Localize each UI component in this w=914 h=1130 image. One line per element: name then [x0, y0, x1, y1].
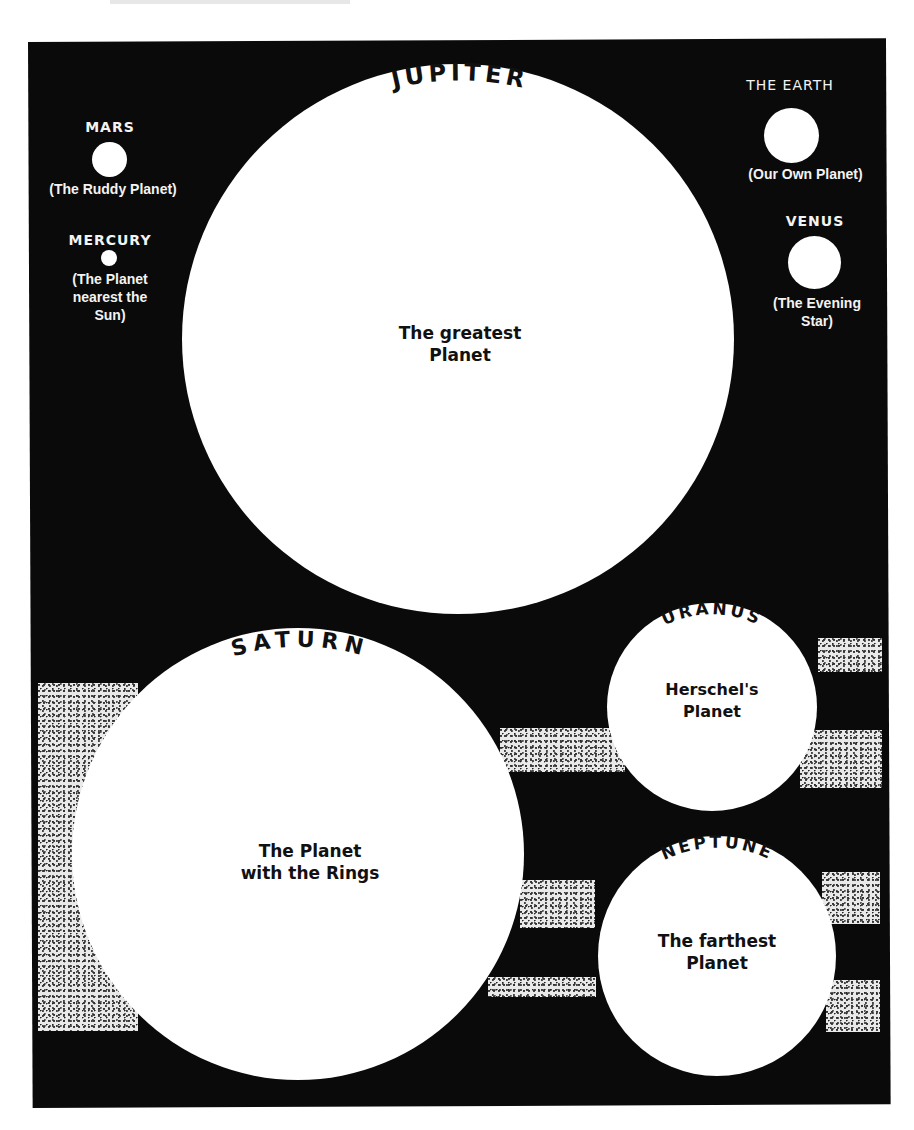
neptune-description: The farthest Planet	[622, 930, 812, 974]
svg-text:NEPTUNE: NEPTUNE	[658, 832, 778, 864]
neptune-name: NEPTUNE	[658, 832, 778, 864]
neptune-description-line-2: Planet	[622, 952, 812, 974]
neptune-description-line-1: The farthest	[622, 930, 812, 952]
